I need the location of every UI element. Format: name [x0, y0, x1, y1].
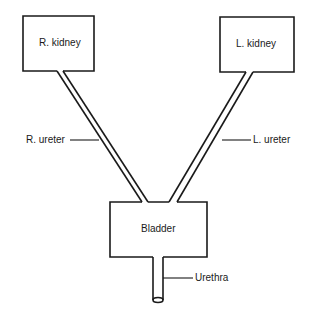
l-kidney-label: L. kidney — [236, 38, 276, 50]
l-ureter-line-outer — [177, 72, 253, 202]
r-ureter-line-outer — [57, 71, 142, 202]
bladder-label: Bladder — [141, 223, 175, 235]
r-ureter-label: R. ureter — [26, 134, 65, 146]
urethra-opening — [153, 298, 163, 303]
r-ureter-line-inner — [63, 71, 148, 202]
r-kidney-label: R. kidney — [39, 37, 81, 49]
l-ureter-label: L. ureter — [253, 134, 290, 146]
urethra-label: Urethra — [195, 272, 228, 284]
l-ureter-line-inner — [169, 72, 246, 202]
